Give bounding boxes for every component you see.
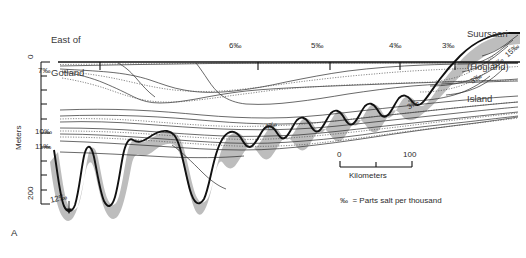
panel-id-label: A	[11, 228, 17, 239]
scale-bar-label-right: 100	[403, 150, 416, 159]
y-axis-title: Meters	[14, 126, 23, 150]
salinity-cross-section-figure: East of Gotland Suursaari (Hogland) Isla…	[0, 0, 526, 258]
depth-label-0: 0	[26, 55, 35, 59]
salinity-top-label-4: 4‰	[389, 41, 401, 50]
depth-label-200: 200	[26, 187, 35, 200]
place-label-left-line2: Gotland	[51, 68, 84, 79]
salinity-left-label-11: 11‰	[35, 142, 51, 151]
place-label-right-line1: Suursaari	[467, 29, 509, 40]
salinity-top-label-5: 5‰	[311, 41, 323, 50]
scale-bar	[340, 161, 412, 167]
salinity-top-label-3: 3‰	[442, 41, 454, 50]
scale-bar-caption: Kilometers	[349, 171, 387, 180]
place-label-left: East of Gotland	[51, 13, 84, 100]
place-label-left-line1: East of	[51, 35, 84, 46]
isoline-solid-8	[60, 96, 518, 118]
permil-legend: ‰ = Parts salt per thousand	[340, 196, 442, 205]
place-label-right-line3: Island	[467, 94, 509, 105]
salinity-left-label-7: 7‰	[38, 66, 50, 75]
salinity-top-label-6: 6‰	[229, 41, 241, 50]
salinity-left-label-10: 10‰	[35, 127, 52, 136]
place-label-right: Suursaari (Hogland) Island	[467, 7, 509, 127]
scale-bar-label-left: 0	[337, 150, 341, 159]
